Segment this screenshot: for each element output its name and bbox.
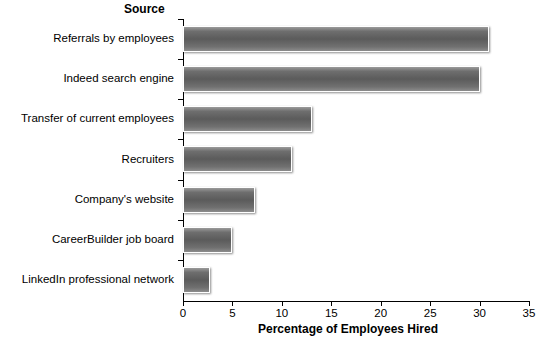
x-axis-title: Percentage of Employees Hired <box>0 322 551 336</box>
tick-mark <box>331 301 332 306</box>
tick-mark <box>183 301 184 306</box>
category-label: Recruiters <box>122 154 174 166</box>
category-label: Transfer of current employees <box>21 113 174 125</box>
category-label: Company's website <box>75 194 174 206</box>
bar-row <box>183 59 529 99</box>
tick-mark <box>430 301 431 306</box>
bar-fill <box>183 106 312 132</box>
bar-row <box>183 99 529 139</box>
tick-label: 25 <box>424 307 437 319</box>
bar <box>183 267 210 293</box>
bar <box>183 26 489 52</box>
tick-label: 20 <box>374 307 387 319</box>
tick-label: 0 <box>180 307 186 319</box>
bar-row <box>183 139 529 179</box>
tick-mark <box>232 301 233 306</box>
category-label: Indeed search engine <box>63 73 174 85</box>
bar-fill <box>183 187 255 213</box>
plot-area <box>183 19 529 300</box>
tick-label: 5 <box>229 307 235 319</box>
bar <box>183 187 255 213</box>
bar-fill <box>183 26 489 52</box>
y-axis-title: Source <box>124 2 165 16</box>
bar <box>183 66 480 92</box>
bar-row <box>183 220 529 260</box>
bar-row <box>183 19 529 59</box>
tick-mark <box>480 301 481 306</box>
bar-row <box>183 260 529 300</box>
tick-label: 30 <box>473 307 486 319</box>
tick-mark <box>282 301 283 306</box>
bar-fill <box>183 146 292 172</box>
bar-fill <box>183 267 210 293</box>
tick-label: 15 <box>325 307 338 319</box>
bar-fill <box>183 227 232 253</box>
x-axis-line <box>183 301 530 302</box>
tick-mark <box>381 301 382 306</box>
tick-label: 10 <box>275 307 288 319</box>
bar <box>183 146 292 172</box>
bar-fill <box>183 66 480 92</box>
category-label: Referrals by employees <box>53 33 174 45</box>
bar <box>183 106 312 132</box>
tick-label: 35 <box>523 307 536 319</box>
tick-mark <box>529 301 530 306</box>
bar <box>183 227 232 253</box>
bar-row <box>183 180 529 220</box>
bar-chart: Source Percentage of Employees Hired Ref… <box>0 0 551 347</box>
category-label: LinkedIn professional network <box>22 274 174 286</box>
category-label: CareerBuilder job board <box>52 234 174 246</box>
